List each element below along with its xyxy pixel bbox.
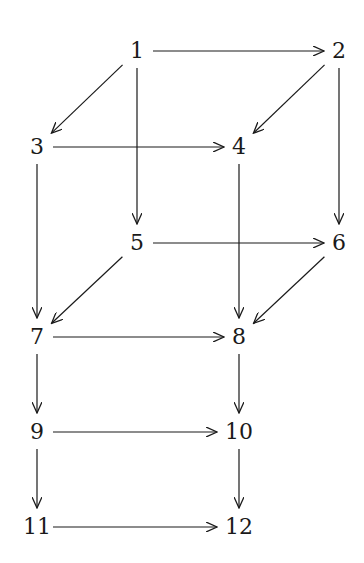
node-9: 9 xyxy=(30,421,44,443)
node-5: 5 xyxy=(130,232,144,254)
edge-6-to-8-arrow-icon xyxy=(254,257,325,324)
node-4: 4 xyxy=(232,136,246,158)
node-3: 3 xyxy=(30,136,44,158)
edge-5-to-7-arrow-icon xyxy=(52,257,123,324)
node-6: 6 xyxy=(332,232,346,254)
node-10: 10 xyxy=(225,421,253,443)
node-11: 11 xyxy=(23,516,51,538)
node-12: 12 xyxy=(225,516,253,538)
node-2: 2 xyxy=(332,40,346,62)
edges-layer xyxy=(0,0,364,563)
edge-1-to-3-arrow-icon xyxy=(51,65,122,133)
node-7: 7 xyxy=(30,326,44,348)
node-1: 1 xyxy=(130,40,144,62)
edge-2-to-4-arrow-icon xyxy=(253,65,324,133)
node-8: 8 xyxy=(232,326,246,348)
